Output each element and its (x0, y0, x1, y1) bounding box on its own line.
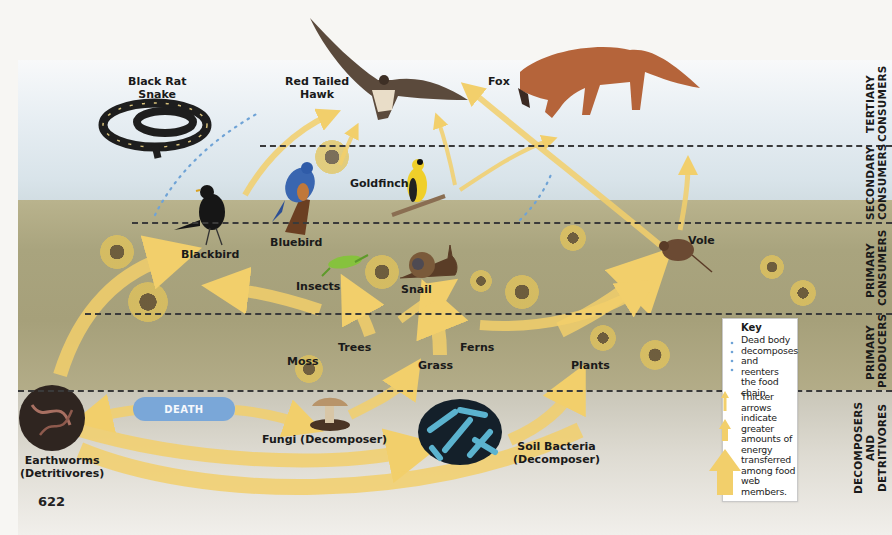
zone-label-tertiary-consumers: TERTIARY CONSUMERS (864, 66, 888, 142)
legend-key: Key Dead body decomposes and reenters th… (722, 318, 798, 502)
fungi-image (310, 398, 350, 431)
arrow-thickness-icon (705, 389, 745, 499)
label-moss: Moss (287, 355, 319, 368)
black-rat-snake-image (103, 103, 207, 158)
boundary-tertiary-secondary (260, 145, 892, 147)
zone-label-decomposers-detritivores: DECOMPOSERS AND DETRITIVORES (852, 395, 888, 501)
earthworms-image (19, 385, 85, 451)
dotted-line-icon (727, 339, 739, 379)
blackbird-image (174, 185, 225, 245)
legend-title: Key (741, 322, 762, 333)
label-earthworms: Earthworms (Detritivores) (20, 454, 104, 480)
label-blackbird: Blackbird (181, 248, 239, 261)
label-goldfinch: Goldfinch (350, 177, 409, 190)
label-bluebird: Bluebird (270, 236, 322, 249)
boundary-primary-producers (85, 313, 892, 315)
insect-image (322, 253, 368, 276)
label-grass: Grass (418, 359, 453, 372)
page-number: 622 (38, 494, 65, 509)
soil-bacteria-image (418, 399, 502, 465)
legend-dotted-description: Dead body decomposes and reenters the fo… (741, 335, 798, 398)
label-fox: Fox (488, 75, 510, 88)
label-plants: Plants (571, 359, 610, 372)
zone-label-primary-producers: PRIMARY PRODUCERS (864, 318, 888, 388)
label-red-tailed-hawk: Red Tailed Hawk (285, 75, 349, 101)
label-soil-bacteria: Soil Bacteria (Decomposer) (513, 440, 600, 466)
zone-label-primary-consumers: PRIMARY CONSUMERS (864, 236, 888, 306)
food-web-diagram: TERTIARY CONSUMERS SECONDARY CONSUMERS P… (0, 0, 892, 535)
death-pill: DEATH (133, 397, 235, 421)
label-ferns: Ferns (460, 341, 494, 354)
label-snail: Snail (401, 283, 432, 296)
legend-arrow-description: Thicker arrows indicate greater amounts … (741, 392, 797, 497)
label-trees: Trees (338, 341, 371, 354)
bluebird-image (272, 162, 320, 235)
boundary-secondary-primary (132, 222, 892, 224)
zone-label-secondary-consumers: SECONDARY CONSUMERS (864, 148, 888, 220)
label-insects: Insects (296, 280, 340, 293)
label-vole: Vole (688, 234, 715, 247)
label-black-rat-snake: Black Rat Snake (128, 75, 186, 101)
fox-image (518, 47, 700, 118)
snail-image (400, 245, 457, 278)
red-tailed-hawk-image (310, 18, 468, 120)
label-fungi: Fungi (Decomposer) (262, 433, 387, 446)
